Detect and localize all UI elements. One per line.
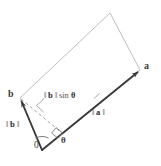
norm-a-symbol: a bbox=[96, 107, 100, 117]
norm-b-symbol: b bbox=[10, 119, 15, 129]
norm-a-label: ‖ a ‖ bbox=[92, 108, 104, 117]
norm-b-bar-right: ‖ bbox=[17, 119, 19, 129]
height-bar-left: ‖ bbox=[44, 90, 46, 100]
norm-a-bar-left: ‖ bbox=[92, 107, 94, 117]
vector-b-label: b bbox=[8, 89, 14, 99]
origin-label: 0 bbox=[34, 141, 39, 151]
norm-b-bar-left: ‖ bbox=[6, 119, 8, 129]
vector-a-label: a bbox=[144, 61, 149, 71]
theta-label: θ bbox=[61, 136, 66, 145]
figure-canvas bbox=[0, 0, 161, 166]
vector-parallelogram-figure: b a ‖ b ‖ ‖ a ‖ ‖ b ‖ sin θ 0 θ bbox=[0, 0, 161, 166]
norm-a-bar-right: ‖ bbox=[102, 107, 104, 117]
height-label: ‖ b ‖ sin θ bbox=[44, 91, 75, 100]
height-angle-symbol: θ bbox=[71, 90, 75, 100]
parallelogram-outline bbox=[20, 13, 140, 150]
norm-b-label: ‖ b ‖ bbox=[6, 120, 19, 129]
height-bar-right: ‖ bbox=[55, 90, 57, 100]
height-trig-function: sin bbox=[59, 90, 69, 100]
height-symbol: b bbox=[48, 90, 53, 100]
vector-a-arrow bbox=[42, 72, 138, 150]
